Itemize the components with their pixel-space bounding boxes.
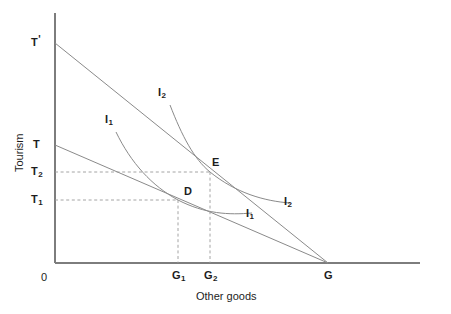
- point-label-d: D: [184, 186, 192, 197]
- y-tick-t2-letter: T: [31, 165, 38, 177]
- indifference-curve-i1: [116, 132, 252, 214]
- x-axis-title: Other goods: [196, 291, 257, 302]
- curve-label-i1-upper-letter: I: [105, 113, 108, 125]
- y-axis-title: Tourism: [14, 133, 25, 172]
- y-tick-t-prime-mark: ': [38, 34, 40, 45]
- curve-label-i2-right-sub: 2: [288, 200, 292, 209]
- curve-label-i1-upper: I1: [105, 114, 113, 125]
- indifference-curve-diagram: [0, 0, 451, 314]
- curve-label-i1-right: I1: [246, 208, 254, 219]
- y-tick-t1-sub: 1: [38, 198, 42, 207]
- curve-label-i2-upper-sub: 2: [162, 91, 166, 100]
- y-tick-t-prime: T': [31, 37, 40, 48]
- curve-label-i2-right-letter: I: [284, 195, 287, 207]
- curve-label-i2-upper-letter: I: [158, 86, 161, 98]
- curve-label-i2-right: I2: [284, 196, 292, 207]
- curve-label-i1-right-sub: 1: [250, 212, 254, 221]
- x-tick-g1-sub: 1: [181, 274, 185, 283]
- x-tick-g2-sub: 2: [213, 274, 217, 283]
- x-tick-g2: G2: [204, 270, 217, 281]
- curve-label-i1-right-letter: I: [246, 207, 249, 219]
- x-tick-g1: G1: [172, 270, 185, 281]
- curve-label-i2-upper: I2: [158, 87, 166, 98]
- budget-line-after: [55, 43, 328, 263]
- origin-label: 0: [41, 272, 47, 283]
- y-tick-t1: T1: [31, 194, 42, 205]
- x-tick-g1-letter: G: [172, 269, 181, 281]
- y-tick-t1-letter: T: [31, 193, 38, 205]
- x-tick-g2-letter: G: [204, 269, 213, 281]
- y-tick-t-prime-letter: T: [31, 36, 38, 48]
- chart-canvas: Tourism Other goods 0 T' T T2 T1 G1 G2 G…: [0, 0, 451, 314]
- point-label-e: E: [212, 157, 219, 168]
- x-tick-g: G: [324, 270, 333, 281]
- curve-label-i1-upper-sub: 1: [109, 118, 113, 127]
- y-tick-t2-sub: 2: [38, 170, 42, 179]
- y-tick-t: T: [33, 139, 40, 150]
- y-tick-t2: T2: [31, 166, 42, 177]
